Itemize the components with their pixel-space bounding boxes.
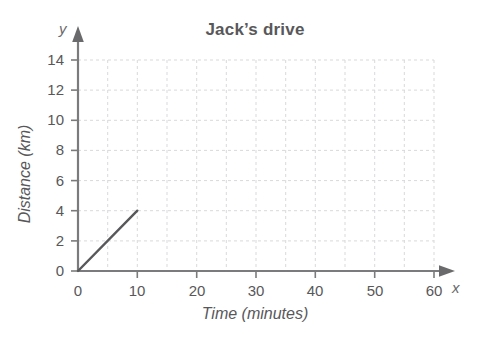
x-axis-letter: x [452,279,460,296]
grid-vertical [108,60,434,271]
x-tick-label: 0 [61,282,95,299]
x-tick-label: 20 [180,282,214,299]
x-axis-label: Time (minutes) [125,305,385,323]
x-tick-label: 30 [239,282,273,299]
y-tick-label: 10 [38,111,64,128]
y-tick-label: 8 [38,141,64,158]
x-tick-label: 40 [298,282,332,299]
y-axis-letter: y [59,20,67,37]
y-tick-label: 12 [38,81,64,98]
x-tick-label: 50 [358,282,392,299]
y-tick-label: 0 [38,262,64,279]
y-tick-label: 14 [38,51,64,68]
y-axis-label: Distance (km) [16,94,34,254]
y-tick-label: 2 [38,232,64,249]
x-tick-label: 60 [417,282,451,299]
y-tick-label: 6 [38,172,64,189]
chart-figure: Jack’s drive [0,0,480,351]
x-tick-label: 10 [120,282,154,299]
x-axis-line [78,265,455,277]
y-tick-label: 4 [38,202,64,219]
y-axis-line [72,26,84,271]
